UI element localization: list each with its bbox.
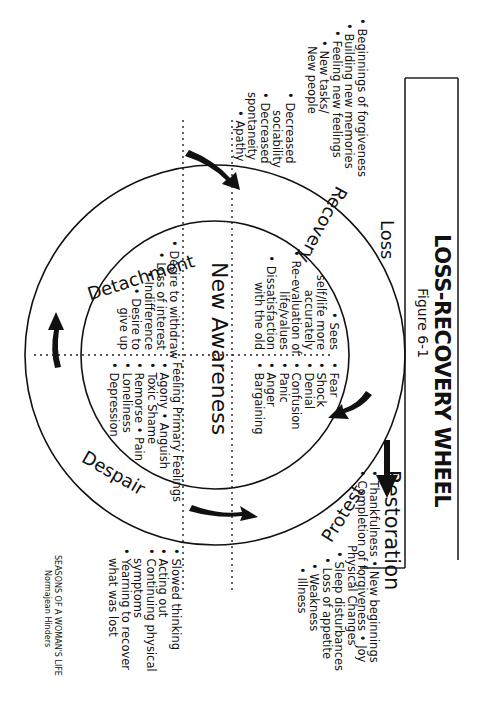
- list-item: symptoms: [132, 548, 145, 672]
- list-item: New people: [306, 18, 319, 177]
- list-item: • Decreased: [284, 92, 297, 168]
- list-item: • Loss of interest: [155, 240, 168, 350]
- page-title: LOSS-RECOVERY WHEEL: [431, 234, 452, 507]
- list-item: • Loss of appetite: [321, 545, 334, 671]
- list-item: • Re-evaluation of: [290, 250, 303, 350]
- list-item: life/values: [278, 250, 291, 350]
- restoration-label: Restoration: [381, 470, 402, 590]
- list-item: • Feeling new feelings: [331, 18, 344, 177]
- list-item: • Building new memories: [343, 18, 356, 177]
- figure-subtitle: Figure 6-1: [416, 288, 430, 358]
- detachment-feelings-list: • Desire to withdraw • Loss of interest …: [118, 240, 181, 350]
- arrow-to-detachment-icon: [48, 312, 64, 368]
- list-item: • Desire to: [130, 240, 143, 350]
- list-item: • Decreased: [259, 92, 272, 168]
- list-item: what was lost: [107, 548, 120, 672]
- list-item: • Shock: [315, 362, 328, 435]
- detachment-notes-list: • Decreased sociability • Decreased spon…: [234, 92, 297, 168]
- list-item: • Panic: [278, 362, 291, 435]
- list-item: • Depression: [108, 362, 121, 502]
- list-item: • Acting out: [157, 548, 170, 672]
- list-item: • Toxic Shame: [146, 362, 159, 502]
- list-item: Physical Changes: [346, 545, 359, 671]
- list-item: • Sees: [328, 250, 341, 350]
- credit-line-2: Normajean Hinders: [42, 570, 52, 647]
- list-item: • Beginnings of forgiveness: [356, 18, 369, 177]
- center-label: New Awareness: [208, 262, 230, 435]
- list-item: • Agony • Anguish: [158, 362, 171, 502]
- list-item: • Denial: [303, 362, 316, 435]
- list-item: • Dissatisfaction: [265, 250, 278, 350]
- despair-notes-list: • Slowed thinking • Acting out • Continu…: [107, 548, 182, 672]
- list-item: • Anger: [265, 362, 278, 435]
- loss-label: Loss: [378, 220, 396, 259]
- list-item: • Illness: [296, 545, 309, 671]
- list-item: • Fear: [328, 362, 341, 435]
- list-item: • Desire to withdraw: [168, 240, 181, 350]
- recovery-feelings-list: • Sees self/life more accurately • Re-ev…: [253, 250, 341, 350]
- list-item: self/life more: [315, 250, 328, 350]
- list-item: • Indifference: [143, 240, 156, 350]
- list-item: • Weakness: [308, 545, 321, 671]
- list-item: • Bargaining: [253, 362, 266, 435]
- list-item: • Remorse • Pain: [133, 362, 146, 502]
- loss-feelings-list: • Fear • Shock • Denial • Confusion • Pa…: [253, 362, 341, 435]
- list-item: spontaneity: [246, 92, 259, 168]
- list-item: • Loneliness: [121, 362, 134, 502]
- list-item: • Confusion: [290, 362, 303, 435]
- list-item: with the old: [253, 250, 266, 350]
- list-item: sociability: [271, 92, 284, 168]
- loss-recovery-wheel-diagram: LOSS-RECOVERY WHEEL Figure 6-1 Loss Rest…: [0, 0, 480, 701]
- list-item: • Sleep disturbances: [333, 545, 346, 671]
- list-item: • Continuing physical: [145, 548, 158, 672]
- list-item: • New tasks/: [318, 18, 331, 177]
- list-item: Feeling Primary Feelings: [171, 362, 184, 502]
- list-item: give up: [118, 240, 131, 350]
- recovery-notes-list: • Beginnings of forgiveness • Building n…: [306, 18, 369, 177]
- arrow-to-despair-icon: [189, 505, 258, 521]
- list-item: • Yearning to recover: [120, 548, 133, 672]
- list-item: • Apathy: [234, 92, 247, 168]
- list-item: • Slowed thinking: [170, 548, 183, 672]
- credit-line-1: SEASONS OF A WOMAN'S LIFE: [52, 555, 62, 676]
- despair-feelings-list: Feeling Primary Feelings • Agony • Angui…: [108, 362, 183, 502]
- protest-notes-list: Physical Changes • Sleep disturbances • …: [296, 545, 359, 671]
- list-item: accurately: [303, 250, 316, 350]
